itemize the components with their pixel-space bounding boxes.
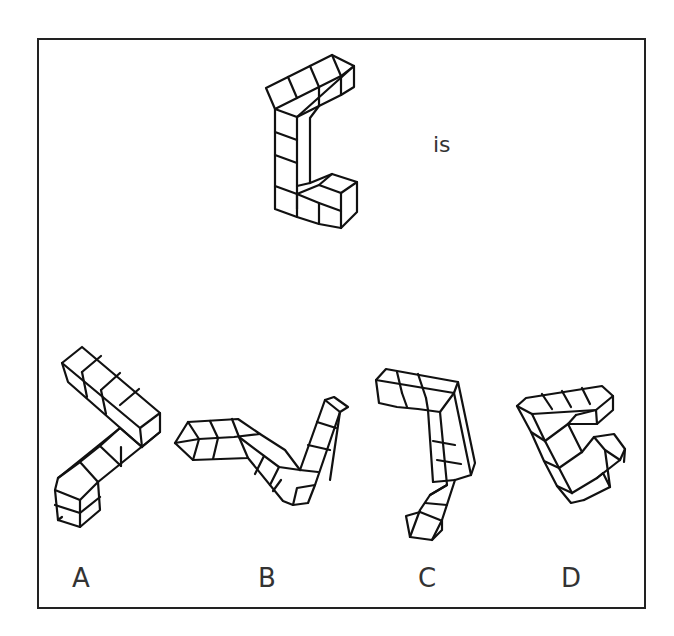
cube-edge xyxy=(624,449,625,462)
option-d-shape[interactable] xyxy=(517,386,625,503)
cube-edge xyxy=(62,347,160,428)
cube-edge xyxy=(562,391,571,407)
option-b-shape[interactable] xyxy=(175,397,348,505)
cube-edge xyxy=(418,374,426,398)
cube-edge xyxy=(82,356,101,372)
cube-edge xyxy=(545,424,568,441)
cube-edge xyxy=(142,413,160,447)
cube-edge xyxy=(232,419,239,437)
cube-edge xyxy=(210,421,218,438)
cube-edge xyxy=(594,437,620,460)
cube-edge xyxy=(420,512,440,520)
cube-edge xyxy=(376,369,458,393)
cube-edge xyxy=(239,437,300,470)
cube-edge xyxy=(582,434,625,478)
cube-edge xyxy=(572,478,597,493)
cube-edge xyxy=(330,412,340,480)
cube-edge xyxy=(100,428,121,466)
option-c-shape[interactable] xyxy=(376,369,475,540)
cube-edge xyxy=(596,396,613,424)
cube-edge xyxy=(62,363,142,447)
option-c-label[interactable]: C xyxy=(418,563,436,593)
cube-edge xyxy=(341,182,357,228)
cube-edge xyxy=(101,373,120,390)
cube-edge xyxy=(310,106,319,183)
cube-edge xyxy=(428,410,433,482)
cube-edge xyxy=(260,434,300,470)
cube-edge xyxy=(397,372,402,393)
cube-edge xyxy=(297,183,310,186)
cube-edge xyxy=(582,388,590,404)
cube-edge xyxy=(410,480,455,540)
cube-edge xyxy=(300,470,318,472)
cube-edge xyxy=(517,386,613,414)
cube-edge xyxy=(275,186,341,228)
cube-figures xyxy=(0,0,674,636)
cube-edge xyxy=(517,406,584,503)
cube-edge xyxy=(317,422,336,428)
cube-edge xyxy=(376,380,454,412)
cube-edge xyxy=(584,487,610,500)
cube-edge xyxy=(425,503,447,505)
cube-edge xyxy=(55,482,100,527)
option-a-shape[interactable] xyxy=(55,347,160,527)
cube-edge xyxy=(213,438,218,459)
connector-text: is xyxy=(433,132,451,157)
option-a-label[interactable]: A xyxy=(72,563,90,593)
cube-edge xyxy=(120,389,139,405)
cube-edge xyxy=(568,424,582,452)
reference-polycube-shape xyxy=(266,55,357,228)
cube-edge xyxy=(426,398,428,410)
cube-edge xyxy=(275,132,297,140)
cube-edge xyxy=(402,393,407,407)
cube-edge xyxy=(568,415,597,424)
cube-edge xyxy=(325,400,340,412)
cube-edge xyxy=(58,462,80,478)
cube-edge xyxy=(433,480,455,482)
option-b-label[interactable]: B xyxy=(258,563,276,593)
cube-edge xyxy=(188,422,199,439)
cube-edge xyxy=(275,155,297,163)
cube-edge xyxy=(270,467,279,485)
cube-edge xyxy=(437,460,461,464)
cube-edge xyxy=(193,439,199,460)
cube-edge xyxy=(273,480,281,491)
cube-edge xyxy=(542,394,552,409)
option-d-label[interactable]: D xyxy=(561,563,581,593)
cube-edge xyxy=(310,66,319,87)
cube-edge xyxy=(288,77,297,98)
cube-edge xyxy=(248,458,315,505)
cube-edge xyxy=(559,452,582,468)
